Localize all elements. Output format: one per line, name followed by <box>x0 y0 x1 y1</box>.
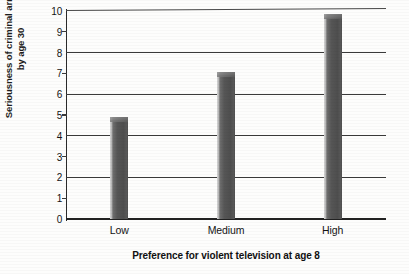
y-axis-tick-label: 2 <box>40 172 62 183</box>
y-axis-tick-label: 5 <box>40 110 62 121</box>
y-axis-tick-label: 4 <box>40 130 62 141</box>
y-axis-tick-label: 1 <box>40 193 62 204</box>
plot-area <box>66 11 386 219</box>
y-axis-minor-tick <box>62 198 67 199</box>
y-axis-title-line-2: by age 30 <box>15 0 27 139</box>
y-axis-title-line-1: Seriousness of criminal arrests <box>3 0 15 139</box>
y-axis-tick-labels: 012345678910 <box>40 11 62 219</box>
y-axis-tick-label: 0 <box>40 214 62 225</box>
bar-chart-figure: Seriousness of criminal arrests by age 3… <box>0 0 409 274</box>
x-axis-tick-label: Low <box>110 224 129 236</box>
y-axis-minor-tick <box>62 114 67 115</box>
bar <box>110 117 128 219</box>
bar <box>324 14 342 219</box>
y-axis-minor-tick <box>62 156 67 157</box>
bar <box>217 72 235 219</box>
x-axis-title: Preference for violent television at age… <box>66 250 386 261</box>
x-axis-tick-labels: LowMediumHigh <box>66 224 386 240</box>
y-axis-tick-label: 3 <box>40 151 62 162</box>
y-axis-minor-tick <box>62 31 67 32</box>
y-axis-tick-label: 9 <box>40 26 62 37</box>
y-axis-tick-label: 7 <box>40 68 62 79</box>
y-axis-minor-tick <box>62 73 67 74</box>
y-axis-tick-label: 8 <box>40 47 62 58</box>
y-axis-tick-label: 10 <box>40 6 62 17</box>
y-axis-title: Seriousness of criminal arrests by age 3… <box>3 0 37 139</box>
x-axis-tick-label: Medium <box>208 224 245 236</box>
gridline <box>66 8 386 11</box>
x-axis-tick-label: High <box>322 224 343 236</box>
y-axis-tick-label: 6 <box>40 89 62 100</box>
